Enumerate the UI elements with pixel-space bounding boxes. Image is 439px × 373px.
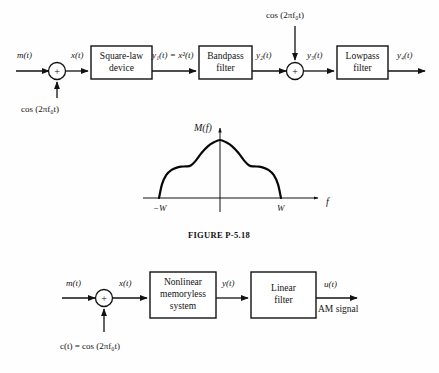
spectrum-y-axis-label: M(f) [193, 122, 212, 134]
block-linear-filter-line1: Linear [271, 283, 297, 293]
spectrum-xtick-plus-w: W [277, 203, 286, 213]
label-y3-of-t: y₃(t) [306, 50, 323, 60]
adder-1-plus-symbol: + [54, 66, 60, 77]
label-y-of-t: y(t) [221, 278, 235, 288]
block-square-law-device-line1: Square-law [100, 51, 143, 61]
bottom-block-diagram: m(t) + c(t) = cos (2πf₀t) x(t) Nonlinear… [60, 272, 359, 351]
figure-canvas: m(t) + cos (2πf₀t) x(t) Square-law devic… [0, 0, 439, 373]
label-am-signal-note: AM signal [318, 304, 359, 314]
block-bandpass-filter-line1: Bandpass [207, 51, 244, 61]
label-carrier-signal-bottom: cos (2πf₀t) [21, 104, 59, 114]
block-nonlinear-line1: Nonlinear [164, 277, 203, 287]
block-bandpass-filter-line2: filter [216, 63, 235, 73]
block-square-law-device-line2: device [109, 63, 134, 73]
spectrum-x-axis-label: f [326, 196, 330, 207]
label-x-of-t: x(t) [70, 50, 84, 60]
block-nonlinear-line2: memoryless [160, 289, 206, 299]
label-y1-of-t: y₁(t) = x²(t) [151, 50, 193, 60]
label-carrier-signal-bottom-diagram: c(t) = cos (2πf₀t) [60, 341, 120, 351]
label-carrier-signal-top: cos (2πf₀t) [266, 10, 304, 20]
label-x-of-t-bottom: x(t) [118, 278, 132, 288]
block-nonlinear-line3: system [170, 301, 197, 311]
label-u-of-t: u(t) [324, 279, 337, 289]
label-message-signal: m(t) [17, 50, 32, 60]
label-message-signal-bottom: m(t) [66, 278, 81, 288]
figure-caption: FIGURE P-5.18 [188, 230, 250, 240]
block-lowpass-filter-line2: filter [353, 63, 372, 73]
adder-2-plus-symbol: + [292, 66, 298, 77]
label-y2-of-t: y₂(t) [255, 50, 272, 60]
adder-plus-symbol-bottom: + [101, 293, 107, 304]
label-y4-of-t: y₄(t) [396, 50, 413, 60]
spectrum-xtick-minus-w: −W [153, 203, 168, 213]
message-spectrum-plot: M(f) f −W W [143, 122, 330, 213]
block-lowpass-filter-line1: Lowpass [346, 51, 380, 61]
top-block-diagram: m(t) + cos (2πf₀t) x(t) Square-law devic… [16, 10, 425, 114]
figure-page: m(t) + cos (2πf₀t) x(t) Square-law devic… [0, 0, 439, 373]
block-linear-filter-line2: filter [274, 295, 293, 305]
